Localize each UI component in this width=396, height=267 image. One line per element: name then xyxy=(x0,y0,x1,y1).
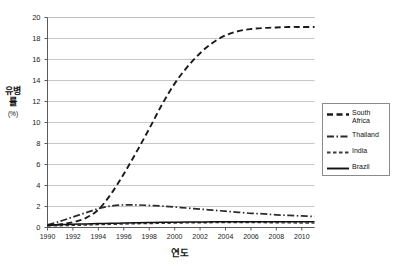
y-tick-label: 16 xyxy=(17,56,41,64)
y-tick-label: 2 xyxy=(17,203,41,211)
legend-item-india[interactable]: India xyxy=(327,147,385,157)
legend-swatch-icon xyxy=(327,164,349,173)
y-tick-label: 4 xyxy=(17,182,41,190)
y-tick-label: 12 xyxy=(17,98,41,106)
legend-item-label: Thailand xyxy=(352,131,379,139)
y-tick-label: 8 xyxy=(17,140,41,148)
legend-item-south-africa[interactable]: South Africa xyxy=(327,109,385,125)
legend-item-label: Brazil xyxy=(352,163,370,171)
legend-item-label: South Africa xyxy=(352,109,385,125)
chart-figure: 유병률 (%) 연도 02468101214161820199019921994… xyxy=(0,0,396,267)
legend-item-brazil[interactable]: Brazil xyxy=(327,163,385,173)
chart-legend: South AfricaThailandIndiaBrazil xyxy=(322,103,390,176)
y-tick-label: 14 xyxy=(17,77,41,85)
y-tick-label: 6 xyxy=(17,161,41,169)
series-line xyxy=(48,27,315,225)
x-tick-label: 2010 xyxy=(285,233,319,241)
y-tick-label: 0 xyxy=(17,224,41,232)
y-tick-label: 20 xyxy=(17,14,41,22)
y-tick-label: 10 xyxy=(17,119,41,127)
legend-item-label: India xyxy=(352,147,367,155)
legend-swatch-icon xyxy=(327,148,349,157)
legend-swatch-icon xyxy=(327,132,349,141)
y-tick-label: 18 xyxy=(17,35,41,43)
legend-item-thailand[interactable]: Thailand xyxy=(327,131,385,141)
legend-swatch-icon xyxy=(327,110,349,119)
